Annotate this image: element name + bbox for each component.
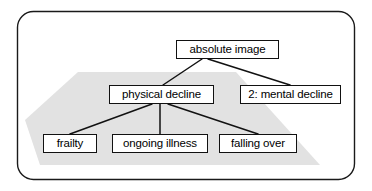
node-mental-decline[interactable]: 2: mental decline [240,85,341,104]
node-absolute-image-label: absolute image [190,44,266,56]
diagram-canvas: absolute image physical decline 2: menta… [0,0,372,191]
node-falling-over-label: falling over [231,138,285,150]
node-frailty[interactable]: frailty [43,134,97,153]
node-falling-over[interactable]: falling over [219,134,297,153]
node-physical-decline[interactable]: physical decline [109,85,214,104]
node-mental-decline-label: 2: mental decline [248,89,332,101]
node-frailty-label: frailty [57,138,83,150]
node-ongoing-illness-label: ongoing illness [123,138,197,150]
node-ongoing-illness[interactable]: ongoing illness [112,134,208,153]
node-physical-decline-label: physical decline [122,89,201,101]
node-absolute-image[interactable]: absolute image [176,40,279,59]
